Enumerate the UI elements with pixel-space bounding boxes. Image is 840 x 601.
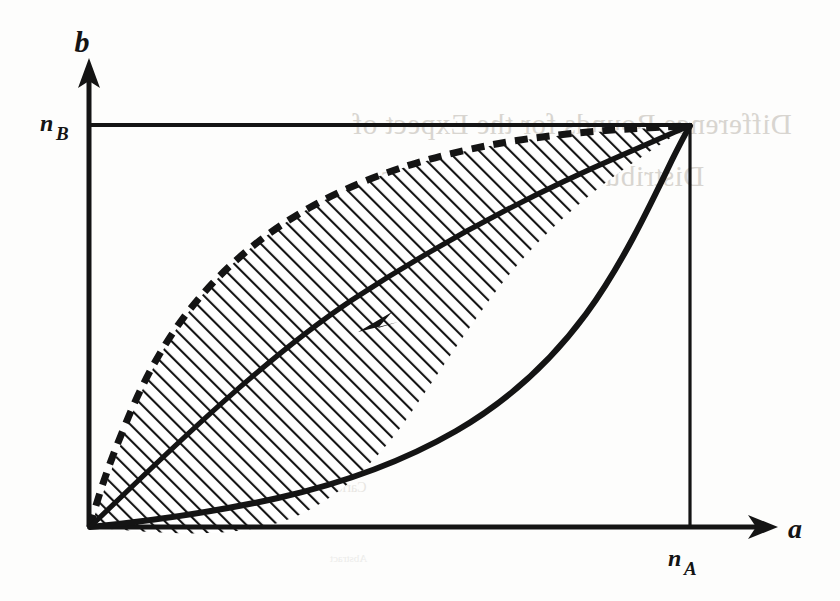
diagram-svg: b a n B n A	[0, 0, 840, 601]
figure-canvas: Difference Bounds for the Expect of Dist…	[0, 0, 840, 601]
x-axis-label: a	[788, 513, 802, 544]
x-tick-base: n	[668, 545, 681, 571]
y-axis-label: b	[75, 25, 90, 58]
hatched-feasible-region	[90, 126, 690, 533]
y-tick-label-nb: n B	[40, 110, 69, 144]
y-axis	[78, 58, 100, 527]
x-tick-subscript: A	[683, 558, 697, 579]
y-tick-base: n	[40, 110, 53, 136]
y-tick-subscript: B	[55, 123, 69, 144]
x-tick-label-na: n A	[668, 545, 697, 579]
